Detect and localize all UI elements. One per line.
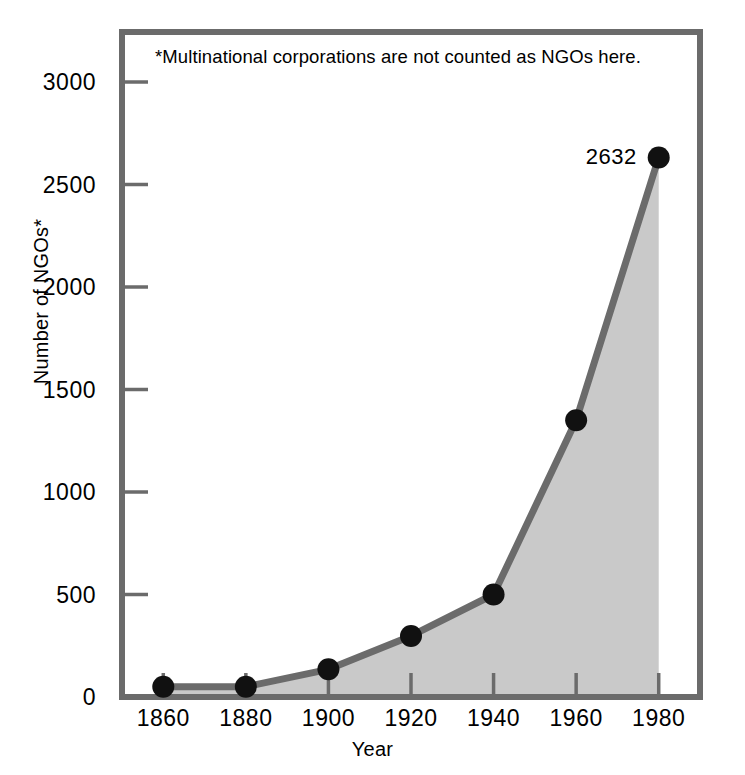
data-point-1860 (152, 676, 174, 698)
y-tick-label-2500: 2500 (0, 171, 110, 198)
y-tick-label-1000: 1000 (0, 479, 110, 506)
y-tick-label-500: 500 (0, 581, 110, 608)
x-tick-label-1960: 1960 (550, 705, 603, 732)
x-tick-label-1920: 1920 (384, 705, 437, 732)
data-point-1880 (235, 676, 257, 698)
x-tick-label-1860: 1860 (137, 705, 190, 732)
y-axis-tick-labels: 050010001500200025003000 (0, 0, 110, 775)
x-tick-label-1900: 1900 (302, 705, 355, 732)
data-point-1960 (565, 409, 587, 431)
y-tick-label-2000: 2000 (0, 274, 110, 301)
x-tick-label-1980: 1980 (632, 705, 685, 732)
x-tick-label-1940: 1940 (467, 705, 520, 732)
data-point-1980 (648, 146, 670, 168)
ngo-growth-chart: Number of NGOs* 050010001500200025003000… (0, 0, 745, 775)
data-point-1900 (317, 658, 339, 680)
data-point-1940 (483, 584, 505, 606)
peak-value-label: 2632 (586, 144, 637, 170)
x-axis-title: Year (0, 738, 745, 761)
data-point-1920 (400, 625, 422, 647)
plot-area (0, 0, 745, 775)
y-tick-label-1500: 1500 (0, 376, 110, 403)
x-tick-label-1880: 1880 (219, 705, 272, 732)
x-axis-tick-labels: 1860188019001920194019601980 (0, 705, 745, 737)
footnote-annotation: *Multinational corporations are not coun… (155, 46, 641, 68)
y-tick-label-3000: 3000 (0, 69, 110, 96)
